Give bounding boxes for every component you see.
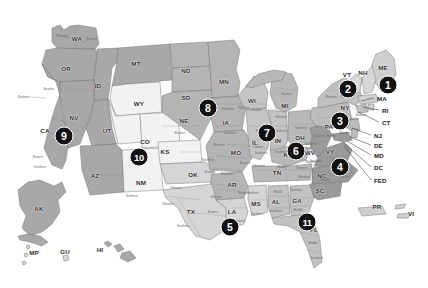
- circuit-marker-4[interactable]: 4: [331, 158, 350, 177]
- state-WY: [110, 82, 162, 116]
- state-MA: [358, 94, 378, 104]
- state-TN: [252, 164, 312, 182]
- circuit-marker-11[interactable]: 11: [298, 213, 317, 232]
- circuit-marker-3[interactable]: 3: [331, 112, 350, 131]
- circuit-marker-6[interactable]: 6: [287, 142, 306, 161]
- circuit-marker-8[interactable]: 8: [199, 99, 218, 118]
- state-WA: [52, 25, 99, 50]
- state-AK-tail: [18, 234, 48, 246]
- state-AK: [18, 180, 66, 236]
- circuit-marker-10[interactable]: 10: [130, 148, 149, 167]
- states-layer: [18, 25, 410, 268]
- state-MD: [332, 132, 352, 142]
- state-OK: [160, 162, 214, 184]
- circuit-marker-2[interactable]: 2: [339, 80, 358, 99]
- state-DE: [351, 128, 358, 138]
- state-AL: [268, 185, 290, 218]
- state-HI: [104, 241, 136, 262]
- territory-GU: [63, 255, 69, 261]
- leader-line-DE: [350, 137, 371, 145]
- state-MT: [112, 44, 172, 86]
- state-CT: [356, 104, 368, 113]
- small-leader-line: [31, 97, 46, 98]
- circuit-marker-9[interactable]: 9: [55, 127, 74, 146]
- state-ND: [170, 42, 210, 68]
- state-AZ: [80, 144, 124, 195]
- territory-VI: [395, 204, 410, 218]
- circuit-marker-1[interactable]: 1: [379, 76, 398, 95]
- territory-PR: [358, 206, 386, 216]
- territory-MP: [22, 245, 30, 265]
- us-judicial-circuits-map: .st{stroke:#6e6e6e;stroke-width:.45;stro…: [0, 0, 428, 288]
- state-MN: [208, 40, 240, 98]
- circuit-marker-5[interactable]: 5: [221, 218, 240, 237]
- state-MO: [206, 130, 252, 172]
- state-SD: [172, 66, 212, 92]
- circuit-marker-7[interactable]: 7: [258, 124, 277, 143]
- state-MS: [248, 185, 268, 216]
- leader-line-CT: [358, 112, 379, 122]
